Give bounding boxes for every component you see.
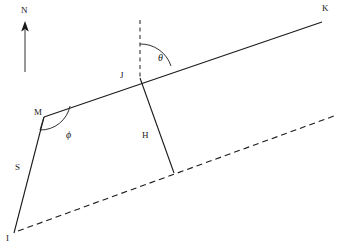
segment-s-label: S	[15, 163, 20, 172]
point-j-label: J	[120, 71, 124, 80]
north-label: N	[21, 6, 28, 15]
point-k-label: K	[322, 4, 329, 13]
point-i-label: I	[6, 234, 9, 243]
segment-h-label: H	[142, 131, 149, 140]
angle-phi-tick	[40, 117, 44, 130]
segment-s-line	[14, 117, 44, 233]
point-m-label: M	[34, 108, 42, 117]
north-arrow-head	[21, 21, 29, 32]
line-m-to-k	[44, 22, 322, 117]
geometry-svg	[0, 0, 340, 250]
segment-h-line	[140, 78, 174, 173]
angle-theta-label: θ	[158, 53, 163, 63]
angle-theta-arc	[140, 44, 171, 66]
diagram-canvas: N K J M I S H θ ϕ	[0, 0, 340, 250]
angle-phi-label: ϕ	[66, 130, 71, 140]
